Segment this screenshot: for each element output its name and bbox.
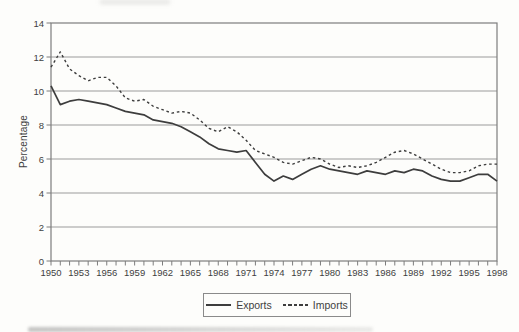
- y-tick-label-6: 6: [39, 154, 44, 165]
- y-tick-label-2: 2: [39, 222, 44, 233]
- y-tick-label-14: 14: [33, 18, 44, 29]
- scanned-figure-page: 0246810121419501953195619591962196519681…: [0, 0, 519, 332]
- legend-label-imports: Imports: [313, 299, 348, 311]
- y-tick-label-12: 12: [33, 52, 44, 63]
- plot-border: [51, 23, 497, 261]
- x-tick-label-1968: 1968: [208, 267, 229, 278]
- imports-line-swatch: [283, 304, 308, 306]
- y-axis-title: Percentage: [18, 92, 29, 192]
- x-tick-label-1959: 1959: [124, 267, 145, 278]
- x-tick-label-1977: 1977: [291, 267, 312, 278]
- x-tick-label-1998: 1998: [486, 267, 507, 278]
- x-tick-label-1986: 1986: [375, 267, 396, 278]
- x-tick-label-1971: 1971: [236, 267, 257, 278]
- x-tick-label-1995: 1995: [459, 267, 480, 278]
- exports-imports-line-chart: 0246810121419501953195619591962196519681…: [0, 0, 519, 332]
- x-tick-label-1992: 1992: [431, 267, 452, 278]
- cropped-caption-remnant: [28, 327, 373, 332]
- x-tick-label-1974: 1974: [263, 267, 284, 278]
- legend: Exports Imports: [203, 293, 351, 317]
- exports-line-swatch: [206, 304, 231, 306]
- x-tick-label-1983: 1983: [347, 267, 368, 278]
- y-tick-label-4: 4: [39, 188, 44, 199]
- exports-line: [51, 86, 497, 181]
- x-tick-label-1956: 1956: [96, 267, 117, 278]
- x-tick-label-1989: 1989: [403, 267, 424, 278]
- y-tick-label-0: 0: [39, 256, 44, 267]
- y-tick-label-10: 10: [33, 86, 44, 97]
- chart-canvas: 0246810121419501953195619591962196519681…: [0, 0, 519, 332]
- legend-label-exports: Exports: [236, 299, 272, 311]
- x-tick-label-1953: 1953: [68, 267, 89, 278]
- y-tick-label-8: 8: [39, 120, 44, 131]
- x-tick-label-1965: 1965: [180, 267, 201, 278]
- imports-line: [51, 52, 497, 173]
- x-tick-label-1962: 1962: [152, 267, 173, 278]
- x-tick-label-1980: 1980: [319, 267, 340, 278]
- x-tick-label-1950: 1950: [40, 267, 61, 278]
